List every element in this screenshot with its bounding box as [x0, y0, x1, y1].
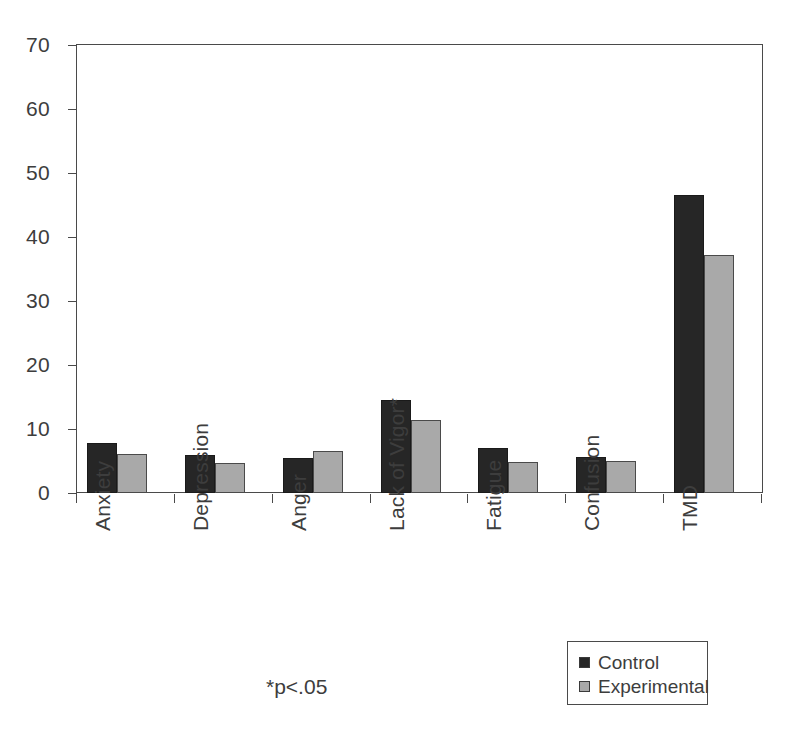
bar-experimental [313, 451, 343, 493]
legend: ControlExperimental [567, 641, 708, 705]
y-axis: 010203040506070 [0, 0, 76, 734]
x-axis-label-1: Depression [190, 423, 211, 531]
bar-experimental [606, 461, 636, 493]
bar-group [664, 45, 762, 493]
legend-entry-control: Control [579, 651, 659, 673]
x-tick-mark [174, 494, 175, 503]
x-axis-label-2: Anger [288, 474, 309, 531]
legend-swatch-experimental [579, 681, 590, 692]
x-tick-mark [565, 494, 566, 503]
bar-experimental [411, 420, 441, 493]
x-axis-label-3: Lack of Vigor* [386, 398, 407, 531]
x-axis-label-4: Fatigue [483, 460, 504, 531]
x-tick-mark [761, 494, 762, 503]
y-tick-label: 50 [6, 162, 50, 183]
y-tick-label: 0 [6, 482, 50, 503]
legend-swatch-control [579, 657, 590, 668]
x-tick-mark [76, 494, 77, 503]
y-tick-label: 60 [6, 98, 50, 119]
x-tick-mark [663, 494, 664, 503]
bar-experimental [704, 255, 734, 493]
bar-chart: 010203040506070 AnxietyDepressionAngerLa… [0, 0, 791, 734]
y-tick-label: 20 [6, 354, 50, 375]
bar-experimental [508, 462, 538, 493]
legend-label: Control [598, 653, 659, 672]
bar-group [468, 45, 566, 493]
plot-area [77, 45, 762, 493]
bar-group [273, 45, 371, 493]
x-axis-label-5: Confusion [581, 435, 602, 531]
significance-note: *p<.05 [266, 676, 327, 697]
x-tick-mark [272, 494, 273, 503]
y-tick-label: 70 [6, 34, 50, 55]
legend-label: Experimental [598, 677, 709, 696]
y-tick-label: 10 [6, 418, 50, 439]
x-axis-label-0: Anxiety [92, 461, 113, 531]
y-tick-label: 30 [6, 290, 50, 311]
bar-group [77, 45, 175, 493]
x-tick-mark [370, 494, 371, 503]
bar-experimental [117, 454, 147, 493]
x-tick-mark [467, 494, 468, 503]
x-axis-label-6: TMD [679, 485, 700, 531]
legend-entry-experimental: Experimental [579, 675, 709, 697]
bar-experimental [215, 463, 245, 493]
y-tick-label: 40 [6, 226, 50, 247]
bar-control [674, 195, 704, 493]
bar-group [566, 45, 664, 493]
